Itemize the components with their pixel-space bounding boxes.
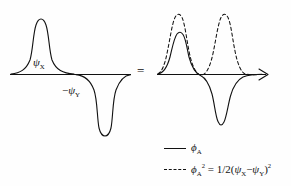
label-psi-x: ψX [33, 57, 45, 71]
phi-squared-subscript: A [197, 170, 202, 177]
legend-power: 2 [268, 162, 271, 169]
right-panel [157, 14, 268, 125]
phi-a-squared-dashed-curve [158, 14, 263, 75]
legend-coefficient: 1/2 [217, 163, 231, 175]
psi-x-subscript: X [40, 63, 45, 70]
psi-x-symbol: ψ [33, 56, 40, 68]
legend-item-phi-a-squared: ϕA2 = 1/2(ψX−ψY)2 [164, 159, 291, 180]
legend-label-phi-a: ϕA [191, 141, 202, 155]
legend-solid-line-swatch [164, 148, 186, 149]
legend-dashed-line-swatch [164, 169, 186, 170]
legend: ϕA ϕA2 = 1/2(ψX−ψY)2 [164, 138, 291, 180]
psi-y-subscript: Y [75, 91, 80, 98]
label-negative-psi-y: −ψY [62, 85, 80, 99]
phi-subscript: A [197, 149, 202, 156]
left-panel [10, 19, 131, 136]
equals-sign: = [137, 64, 144, 77]
minus-psi-y-curve [76, 75, 131, 136]
legend-item-phi-a: ϕA [164, 138, 291, 159]
wavefunction-diagram: ψX −ψY = ϕA ϕA2 = 1/2(ψX−ψY)2 [0, 0, 291, 186]
phi-a-solid-curve [158, 32, 262, 125]
legend-label-phi-a-squared: ϕA2 = 1/2(ψX−ψY)2 [191, 162, 271, 177]
